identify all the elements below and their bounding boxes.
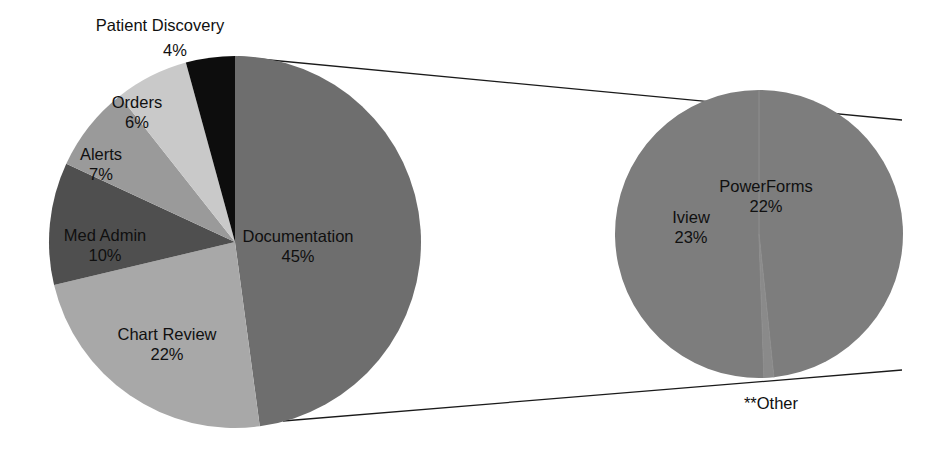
slice-label-documentation: Documentation (243, 227, 354, 245)
chart-canvas: Documentation45%Chart Review22%Med Admin… (0, 0, 934, 453)
slice-value-alerts: 7% (89, 165, 113, 183)
slice-label-alerts: Alerts (80, 145, 122, 163)
slice-value-powerforms: 22% (749, 197, 782, 215)
slice-value-documentation: 45% (281, 247, 314, 265)
pie-chart-figure: Documentation45%Chart Review22%Med Admin… (0, 0, 934, 453)
slice-value-chart-review: 22% (150, 345, 183, 363)
slice-value-med-admin: 10% (88, 246, 121, 264)
slice-label-med-admin: Med Admin (64, 226, 147, 244)
slice-label-powerforms: PowerForms (719, 177, 813, 195)
slice-value-patient-discovery: 4% (163, 41, 187, 59)
slice-value-iview: 23% (674, 228, 707, 246)
slice-label-iview: Iview (672, 208, 710, 226)
slice-label-patient-discovery: Patient Discovery (96, 16, 225, 34)
detail-pie (615, 90, 903, 378)
slice-label-orders: Orders (112, 93, 162, 111)
slice-label-other: **Other (744, 394, 799, 412)
slice-value-orders: 6% (125, 113, 149, 131)
slice-label-chart-review: Chart Review (117, 325, 216, 343)
